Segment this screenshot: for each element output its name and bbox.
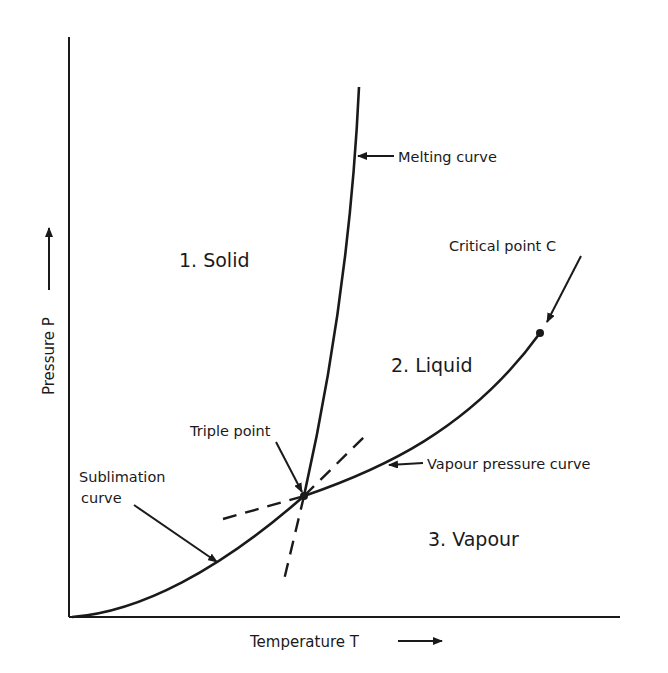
x-axis-label: Temperature T bbox=[249, 633, 360, 651]
critical-point-label: Critical point C bbox=[449, 238, 556, 254]
critical-point-arrow bbox=[547, 256, 581, 322]
region-label-vapour: 3. Vapour bbox=[428, 528, 519, 550]
critical-point-marker bbox=[536, 329, 544, 337]
region-label-solid: 1. Solid bbox=[179, 249, 249, 271]
melting-curve-label: Melting curve bbox=[398, 149, 497, 165]
vapour-pressure-curve-label: Vapour pressure curve bbox=[427, 456, 590, 472]
vapour-extension-dashed bbox=[304, 435, 366, 496]
sublimation-curve-arrow bbox=[134, 505, 217, 562]
region-label-liquid: 2. Liquid bbox=[391, 354, 472, 376]
phase-diagram: 1. Solid 2. Liquid 3. Vapour Melting cur… bbox=[0, 0, 668, 673]
sublimation-curve bbox=[72, 496, 304, 617]
sublimation-curve-label-line1: Sublimation bbox=[79, 469, 165, 485]
triple-point-arrow bbox=[276, 442, 302, 492]
y-axis-label: Pressure P bbox=[40, 317, 58, 395]
melting-extension-dashed bbox=[284, 496, 304, 580]
vapour-pressure-arrow bbox=[389, 463, 423, 465]
melting-curve bbox=[304, 87, 359, 496]
triple-point-label: Triple point bbox=[189, 423, 271, 439]
triple-point-marker bbox=[300, 492, 308, 500]
sublimation-curve-label-line2: curve bbox=[81, 490, 122, 506]
